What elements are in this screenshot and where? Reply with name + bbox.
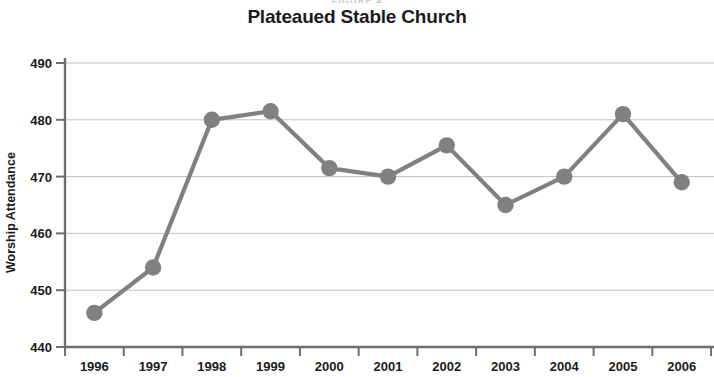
- y-axis-ticks-group: [56, 63, 65, 347]
- y-axis-tick-label: 470: [30, 170, 52, 185]
- x-axis-tick-label: 2002: [432, 359, 461, 374]
- x-axis-tick-label: 2001: [374, 359, 403, 374]
- x-axis-tick-label: 1999: [256, 359, 285, 374]
- data-point-marker: [204, 112, 220, 128]
- x-axis-tick-label: 2004: [550, 359, 580, 374]
- figure-container: FIGURE 4 Plateaued Stable Church Worship…: [0, 0, 714, 377]
- data-point-marker: [321, 160, 337, 176]
- x-axis-tick-label: 2006: [667, 359, 696, 374]
- x-axis-tick-label: 2005: [609, 359, 638, 374]
- data-point-marker: [497, 197, 513, 213]
- x-axis-tick-label: 1998: [197, 359, 226, 374]
- y-axis-tick-label: 480: [30, 113, 52, 128]
- data-point-marker: [615, 106, 631, 122]
- x-axis-tick-labels-group: 1996199719981999200020012002200320042005…: [80, 359, 696, 374]
- data-point-marker: [86, 305, 102, 321]
- y-axis-tick-label: 460: [30, 226, 52, 241]
- data-series-line: [94, 111, 681, 313]
- x-axis-ticks-group: [65, 347, 711, 356]
- y-axis-tick-label: 490: [30, 56, 52, 71]
- y-axis-tick-label: 440: [30, 340, 52, 355]
- data-point-marker: [145, 259, 161, 275]
- x-axis-tick-label: 1997: [139, 359, 168, 374]
- line-chart-plot: 440450460470480490 199619971998199920002…: [0, 0, 714, 377]
- y-axis-tick-label: 450: [30, 283, 52, 298]
- data-point-marker: [674, 174, 690, 190]
- data-point-marker: [262, 103, 278, 119]
- data-point-marker: [556, 168, 572, 184]
- x-axis-tick-label: 2000: [315, 359, 344, 374]
- x-axis-tick-label: 1996: [80, 359, 109, 374]
- data-point-marker: [380, 168, 396, 184]
- data-point-marker: [439, 137, 455, 153]
- y-axis-tick-labels-group: 440450460470480490: [30, 56, 52, 355]
- x-axis-tick-label: 2003: [491, 359, 520, 374]
